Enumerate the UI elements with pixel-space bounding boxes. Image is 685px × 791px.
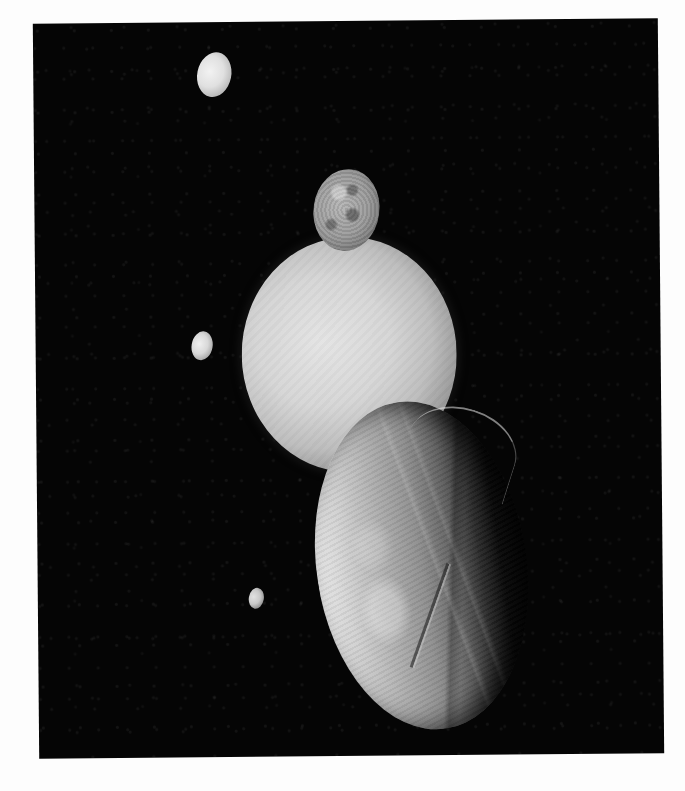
moon-small (247, 587, 265, 610)
moon-top (193, 49, 235, 100)
space-photo (33, 18, 664, 758)
moon-mid (189, 330, 214, 362)
image-canvas (0, 0, 685, 791)
